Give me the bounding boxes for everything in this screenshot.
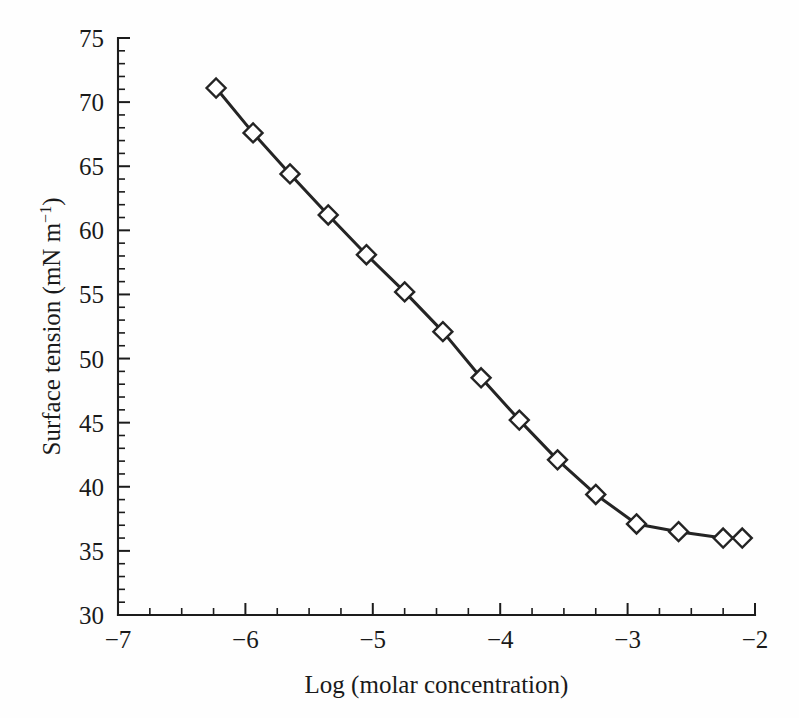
- y-tick-label: 50: [79, 346, 104, 373]
- data-point-marker: [669, 522, 688, 541]
- x-tick-label: −4: [487, 626, 514, 653]
- data-point-marker: [714, 529, 733, 548]
- y-tick-label: 55: [79, 281, 104, 308]
- data-series: [216, 88, 742, 538]
- data-markers: [207, 79, 752, 548]
- y-tick-label: 40: [79, 474, 104, 501]
- x-tick-label: −3: [614, 626, 641, 653]
- y-axis-title: Surface tension (mN m−1): [37, 198, 66, 456]
- x-tick-label: −7: [105, 626, 132, 653]
- y-tick-label: 35: [79, 538, 104, 565]
- x-tick-label: −2: [742, 626, 769, 653]
- y-tick-label: 75: [79, 25, 104, 52]
- axis-titles: Log (molar concentration)Surface tension…: [37, 198, 568, 699]
- surface-tension-chart: 30354045505560657075−7−6−5−4−3−2 Log (mo…: [0, 0, 799, 718]
- data-point-marker: [733, 529, 752, 548]
- x-tick-label: −5: [359, 626, 386, 653]
- axis-tick-labels: 30354045505560657075−7−6−5−4−3−2: [79, 25, 768, 653]
- y-tick-label: 30: [79, 602, 104, 629]
- x-axis-title: Log (molar concentration): [305, 671, 569, 699]
- y-tick-label: 65: [79, 153, 104, 180]
- x-tick-label: −6: [232, 626, 259, 653]
- y-tick-label: 45: [79, 410, 104, 437]
- y-tick-label: 70: [79, 89, 104, 116]
- plot-area: 30354045505560657075−7−6−5−4−3−2 Log (mo…: [0, 0, 799, 718]
- y-tick-label: 60: [79, 217, 104, 244]
- series-line: [216, 88, 742, 538]
